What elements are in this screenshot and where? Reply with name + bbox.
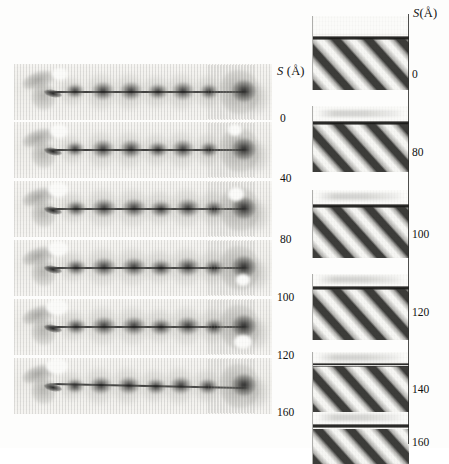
right-axis-label: S(Å) bbox=[413, 6, 437, 21]
right-end-cluster bbox=[216, 124, 270, 176]
right-tick-140: 140 bbox=[412, 383, 429, 395]
stripe-panel bbox=[312, 412, 409, 464]
right-end-cluster bbox=[216, 242, 270, 294]
stripe-panel bbox=[312, 16, 409, 90]
left-panel-column bbox=[14, 64, 272, 416]
right-axis-unit: (Å) bbox=[419, 6, 437, 20]
right-tick-100: 100 bbox=[412, 228, 429, 240]
density-panel bbox=[14, 122, 272, 178]
right-tick-0: 0 bbox=[412, 68, 418, 80]
density-panel bbox=[14, 299, 272, 355]
left-axis-symbol: S bbox=[277, 64, 283, 78]
right-panel-column bbox=[312, 16, 408, 444]
left-tick-160: 160 bbox=[277, 406, 294, 418]
right-end-cluster bbox=[216, 360, 270, 412]
left-tick-120: 120 bbox=[277, 349, 294, 361]
stripe-panel bbox=[312, 190, 409, 258]
right-tick-120: 120 bbox=[412, 306, 429, 318]
density-panel bbox=[14, 181, 272, 237]
density-panel bbox=[14, 358, 272, 414]
left-tick-80: 80 bbox=[280, 233, 292, 245]
stripe-panel bbox=[312, 274, 409, 340]
right-tick-160: 160 bbox=[412, 436, 429, 448]
left-tick-40: 40 bbox=[280, 172, 292, 184]
right-vertical-axis bbox=[408, 14, 409, 444]
stripe-panel bbox=[312, 106, 409, 172]
left-tick-0: 0 bbox=[280, 112, 286, 124]
density-panel bbox=[14, 64, 272, 120]
left-axis-unit: (Å) bbox=[287, 64, 305, 78]
right-tick-80: 80 bbox=[412, 146, 424, 158]
left-axis-label: S (Å) bbox=[277, 64, 305, 79]
right-end-cluster bbox=[216, 66, 270, 118]
left-tick-100: 100 bbox=[277, 291, 294, 303]
density-panel bbox=[14, 240, 272, 296]
stripe-panel bbox=[312, 352, 409, 414]
